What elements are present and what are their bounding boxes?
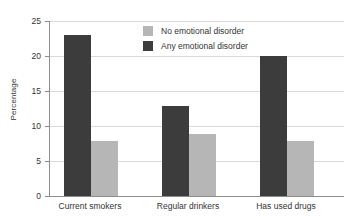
xtick-label-current-smokers: Current smokers: [42, 201, 138, 211]
bar-chart: 25 20 15 10 5 0 Percentage Current smoke…: [0, 0, 352, 224]
ytick-label-20: 20: [5, 52, 41, 61]
bar-current-smokers-any-emotional-disorder: [64, 35, 91, 196]
legend-label-any-emotional-disorder: Any emotional disorder: [161, 41, 248, 51]
ytick-label-25: 25: [5, 17, 41, 26]
legend-item-any-emotional-disorder: Any emotional disorder: [143, 38, 248, 53]
xtick-label-has-used-drugs: Has used drugs: [238, 201, 334, 211]
bar-current-smokers-no-emotional-disorder: [91, 141, 118, 196]
legend-item-no-emotional-disorder: No emotional disorder: [143, 23, 248, 38]
bar-regular-drinkers-no-emotional-disorder: [189, 134, 216, 196]
bar-has-used-drugs-any-emotional-disorder: [260, 56, 287, 196]
xtick-label-regular-drinkers: Regular drinkers: [140, 201, 236, 211]
y-axis-title: Percentage: [9, 65, 18, 135]
legend-swatch-icon-no-emotional-disorder: [143, 26, 153, 36]
ytick-label-0: 0: [5, 192, 41, 201]
ytick-mark-0: [45, 196, 49, 197]
legend: No emotional disorder Any emotional diso…: [143, 23, 248, 53]
ytick-label-5: 5: [5, 157, 41, 166]
legend-swatch-icon-any-emotional-disorder: [143, 41, 153, 51]
legend-label-no-emotional-disorder: No emotional disorder: [161, 26, 244, 36]
bar-regular-drinkers-any-emotional-disorder: [162, 106, 189, 196]
bar-has-used-drugs-no-emotional-disorder: [287, 141, 314, 196]
